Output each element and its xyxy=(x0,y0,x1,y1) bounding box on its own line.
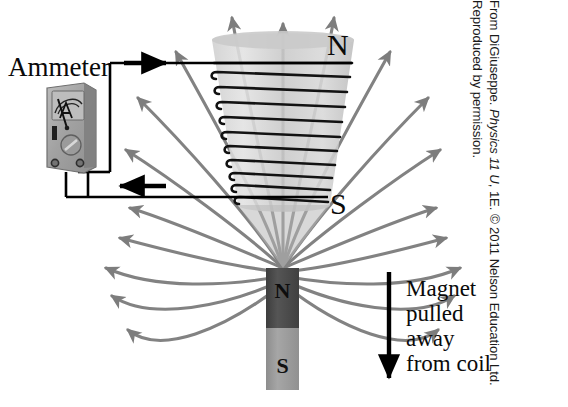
figure-canvas: N S Ammeter N S Magnet pulled away from … xyxy=(0,0,568,407)
ammeter-label: Ammeter xyxy=(8,52,110,83)
ammeter-device[interactable] xyxy=(47,83,96,173)
coil-lower-flare xyxy=(238,205,330,268)
current-direction-arrows xyxy=(120,63,166,186)
bar-magnet: N S xyxy=(266,268,299,390)
ammeter-terminal-left xyxy=(51,159,58,166)
magnet-south-label: S xyxy=(276,353,288,378)
ammeter-needle-pivot xyxy=(65,126,70,131)
field-line-side-l3 xyxy=(106,268,283,284)
coil-north-pole-label: N xyxy=(327,28,349,62)
attribution-credit: From DiGiuseppe. Physics 11 U, 1E. © 201… xyxy=(441,0,503,407)
magnet-north-label: N xyxy=(275,278,291,303)
field-line-side-r2 xyxy=(283,238,446,272)
field-line-side-l2 xyxy=(120,238,283,272)
ammeter-terminal-right xyxy=(76,159,83,166)
ammeter-slider-switch xyxy=(52,126,57,140)
attribution-title: Physics 11 U xyxy=(487,109,502,184)
ammeter-dial-face xyxy=(52,91,84,120)
coil-south-pole-label: S xyxy=(330,187,347,221)
attribution-prefix: From DiGiuseppe. xyxy=(487,0,502,109)
ammeter-side-bevel xyxy=(84,83,96,168)
field-line-side-l5 xyxy=(128,284,283,340)
